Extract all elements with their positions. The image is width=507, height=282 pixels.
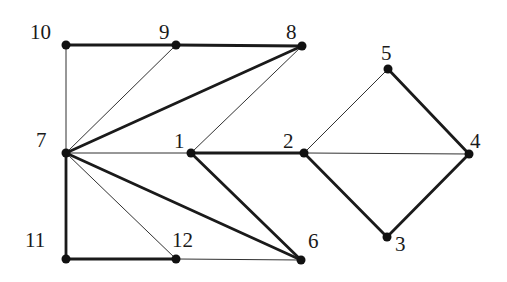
node-label-8: 8: [286, 22, 297, 43]
node-5: [384, 65, 393, 74]
edge-12-6: [176, 259, 301, 260]
edge-1-6: [191, 153, 301, 260]
node-label-10: 10: [30, 22, 51, 43]
edge-layer: [66, 45, 469, 260]
node-label-6: 6: [308, 231, 319, 252]
node-6: [297, 256, 306, 265]
edge-3-4: [387, 154, 469, 237]
node-label-11: 11: [25, 230, 45, 251]
edge-2-5: [304, 69, 388, 153]
node-label-5: 5: [381, 43, 392, 64]
edge-9-7: [66, 45, 176, 153]
node-12: [172, 255, 181, 264]
node-label-9: 9: [159, 22, 170, 43]
edge-2-4: [304, 153, 469, 154]
node-9: [172, 41, 181, 50]
graph-canvas: [0, 0, 507, 282]
node-label-4: 4: [470, 131, 481, 152]
edge-5-4: [388, 69, 469, 154]
node-1: [187, 149, 196, 158]
node-2: [300, 149, 309, 158]
node-10: [62, 41, 71, 50]
node-11: [62, 255, 71, 264]
node-label-7: 7: [36, 130, 47, 151]
node-label-3: 3: [395, 234, 406, 255]
edge-7-12: [66, 153, 176, 259]
node-3: [383, 233, 392, 242]
node-label-1: 1: [174, 131, 185, 152]
node-7: [62, 149, 71, 158]
node-label-12: 12: [172, 230, 193, 251]
node-label-2: 2: [283, 131, 294, 152]
edge-9-8: [176, 45, 302, 46]
node-8: [298, 42, 307, 51]
edge-2-3: [304, 153, 387, 237]
